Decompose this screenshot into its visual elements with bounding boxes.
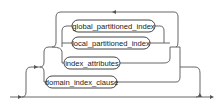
branch-arrow-icon [34, 65, 38, 69]
end-arrow-icon [210, 95, 214, 99]
node-label: domain_index_clause [45, 78, 118, 87]
node-label: global_partitioned_index [72, 22, 155, 31]
node-global-partitioned-index[interactable]: global_partitioned_index [72, 20, 155, 32]
main-line [10, 95, 214, 99]
loop-arrow-icon [112, 10, 116, 14]
start-arrow-icon [18, 95, 22, 99]
railroad-diagram: global_partitioned_index local_partition… [0, 0, 219, 104]
rejoin-arrow-icon [198, 93, 202, 97]
node-label: index_attributes [65, 59, 119, 68]
node-local-partitioned-index[interactable]: local_partitioned_index [72, 37, 150, 49]
node-label: local_partitioned_index [72, 39, 150, 48]
choice-branch [22, 47, 202, 97]
node-index-attributes[interactable]: index_attributes [64, 57, 120, 69]
node-domain-index-clause[interactable]: domain_index_clause [45, 76, 118, 88]
